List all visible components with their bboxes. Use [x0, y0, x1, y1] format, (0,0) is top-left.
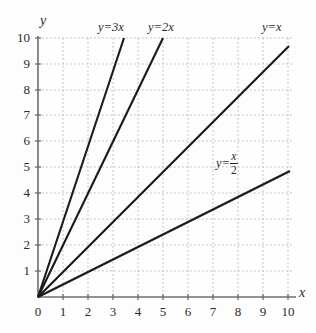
- x-tick-label-6: 6: [178, 305, 198, 318]
- x-tick-label-5: 5: [153, 305, 173, 318]
- fraction-x-over-2: x2: [230, 150, 238, 176]
- x-tick-label-2: 2: [78, 305, 98, 318]
- grid-horizontal: [38, 38, 294, 271]
- curve-label-2x-text: y=2x: [148, 20, 174, 34]
- curve-label-y-equals-x-over-2: y=x2: [216, 151, 238, 177]
- y-tick-label-6: 6: [2, 134, 30, 147]
- line-y-equals-2x: [38, 38, 163, 297]
- y-tick-label-7: 7: [2, 108, 30, 121]
- x-tick-label-7: 7: [203, 305, 223, 318]
- y-tick-label-8: 8: [2, 83, 30, 96]
- y-tick-label-10: 10: [2, 31, 30, 44]
- y-axis-label: y: [40, 14, 46, 28]
- curve-label-y-equals-3x: y=3x: [98, 21, 124, 34]
- fraction-equals: =: [222, 156, 230, 170]
- curve-label-y-equals-2x: y=2x: [148, 21, 174, 34]
- chart-figure: 10 9 8 7 6 5 4 3 2 1 0 1 2 3 4 5 6 7 8 9…: [0, 0, 316, 333]
- y-tick-label-5: 5: [2, 160, 30, 173]
- y-tick-label-2: 2: [2, 238, 30, 251]
- x-tick-label-10: 10: [276, 305, 300, 318]
- x-axis-label: x: [299, 286, 305, 300]
- y-tick-label-1: 1: [2, 264, 30, 277]
- curve-label-y-equals-x: y=x: [262, 21, 282, 34]
- fraction-numerator: x: [230, 150, 238, 162]
- curve-label-3x-text: y=3x: [98, 20, 124, 34]
- x-tick-label-8: 8: [228, 305, 248, 318]
- y-tick-label-4: 4: [2, 186, 30, 199]
- x-tick-label-1: 1: [53, 305, 73, 318]
- line-y-equals-x-over-2: [38, 171, 290, 297]
- chart-canvas: [0, 0, 316, 333]
- curve-label-x-text: y=x: [262, 20, 282, 34]
- x-tick-label-4: 4: [128, 305, 148, 318]
- y-tick-label-9: 9: [2, 57, 30, 70]
- x-tick-label-3: 3: [103, 305, 123, 318]
- fraction-denominator: 2: [230, 164, 238, 176]
- y-tick-label-3: 3: [2, 212, 30, 225]
- x-tick-label-0: 0: [28, 305, 48, 318]
- x-tick-label-9: 9: [253, 305, 273, 318]
